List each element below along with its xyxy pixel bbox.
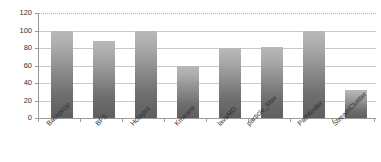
y-tick-label-40: 40 [24,79,32,87]
y-tick-label-0: 0 [28,114,32,122]
y-tick-label-20: 20 [24,97,32,105]
bar-chart: 120 100 80 60 40 20 0 [0,0,381,162]
bar-series [38,13,376,118]
y-tick-label-80: 80 [24,44,32,52]
y-tick-label-120: 120 [19,9,32,17]
bar-bfs [93,41,115,118]
y-tick-label-60: 60 [24,62,32,70]
y-axis-tick-labels: 120 100 80 60 40 20 0 [0,0,36,162]
x-axis-category-labels: Backprop BFS Hotspot Kmeans lavaMD parti… [38,122,376,162]
y-tick-label-100: 100 [19,27,32,35]
